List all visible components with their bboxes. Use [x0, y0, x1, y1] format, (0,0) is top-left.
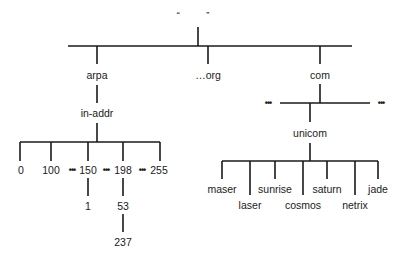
node-0: 0 — [18, 165, 24, 176]
ellipsis-icon: ••• — [69, 166, 75, 175]
node-sunrise: sunrise — [258, 184, 292, 195]
node-arpa: arpa — [86, 70, 107, 81]
node-237: 237 — [114, 237, 132, 248]
node-maser: maser — [207, 184, 236, 195]
ellipsis-icon: ••• — [139, 166, 145, 175]
node-laser: laser — [239, 200, 262, 211]
node-1: 1 — [85, 201, 91, 212]
node-jade: jade — [368, 184, 388, 195]
node-53: 53 — [117, 201, 129, 212]
node-cosmos: cosmos — [285, 200, 321, 211]
tree-edges — [0, 0, 406, 260]
node-198: 198 — [114, 165, 132, 176]
node-org: …org — [195, 70, 221, 81]
node-100: 100 — [42, 165, 60, 176]
node-com: com — [310, 70, 330, 81]
node-150: 150 — [79, 165, 97, 176]
node-255: 255 — [150, 165, 168, 176]
ellipsis-icon: ••• — [103, 166, 109, 175]
ellipsis-icon: ••• — [378, 99, 384, 108]
node-in-addr: in-addr — [81, 108, 114, 119]
node-netrix: netrix — [342, 200, 368, 211]
root-node: “ ” — [177, 11, 222, 20]
node-saturn: saturn — [312, 184, 341, 195]
node-unicom: unicom — [293, 128, 327, 139]
ellipsis-icon: ••• — [265, 99, 271, 108]
